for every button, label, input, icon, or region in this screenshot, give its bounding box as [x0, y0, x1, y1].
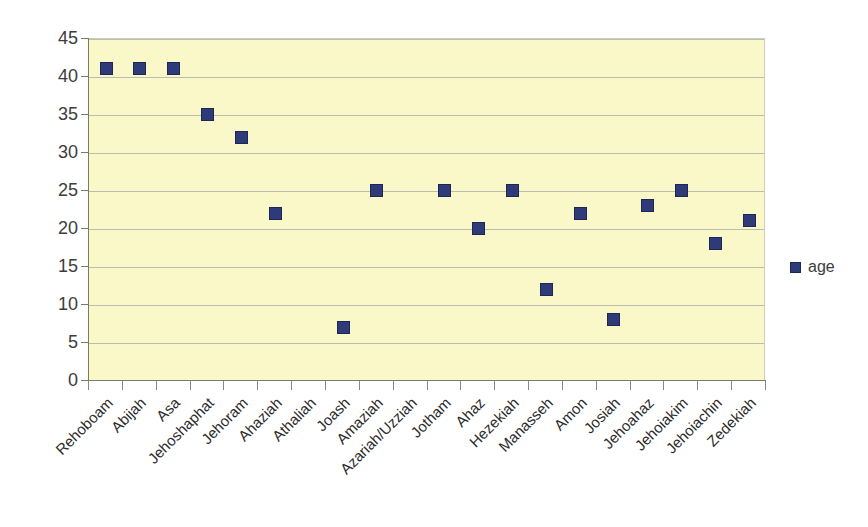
- data-point-marker[interactable]: [167, 62, 180, 75]
- x-axis-tick: [223, 381, 224, 390]
- x-axis-tick: [427, 381, 428, 390]
- gridline: [88, 343, 764, 344]
- x-axis-category-label: Abijah: [108, 394, 150, 436]
- y-axis-line: [88, 38, 89, 381]
- y-axis-tick: [81, 190, 88, 191]
- gridline: [88, 39, 764, 40]
- y-axis-tick-label: 45: [4, 29, 78, 47]
- y-axis-tick-label: 5: [4, 333, 78, 351]
- y-axis-tick: [81, 228, 88, 229]
- data-point-marker[interactable]: [743, 214, 756, 227]
- y-axis-tick: [81, 38, 88, 39]
- x-axis-tick: [359, 381, 360, 390]
- legend-swatch-age: [790, 262, 801, 273]
- chart-legend: age: [790, 258, 835, 276]
- x-axis-tick: [697, 381, 698, 390]
- x-axis-tick: [190, 381, 191, 390]
- y-axis-tick-label: 25: [4, 181, 78, 199]
- data-point-marker[interactable]: [540, 283, 553, 296]
- y-axis-tick-label: 30: [4, 143, 78, 161]
- x-axis-tick: [393, 381, 394, 390]
- data-point-marker[interactable]: [709, 237, 722, 250]
- y-axis-tick: [81, 266, 88, 267]
- x-axis-tick: [596, 381, 597, 390]
- data-point-marker[interactable]: [269, 207, 282, 220]
- y-axis-tick: [81, 342, 88, 343]
- gridline: [88, 115, 764, 116]
- y-axis-tick: [81, 114, 88, 115]
- y-axis-tick: [81, 304, 88, 305]
- x-axis-tick: [765, 381, 766, 390]
- data-point-marker[interactable]: [641, 199, 654, 212]
- x-axis-tick: [731, 381, 732, 390]
- x-axis-tick: [291, 381, 292, 390]
- data-point-marker[interactable]: [675, 184, 688, 197]
- x-axis-tick: [460, 381, 461, 390]
- data-point-marker[interactable]: [607, 313, 620, 326]
- gridline: [88, 191, 764, 192]
- y-axis-tick-label: 40: [4, 67, 78, 85]
- chart-container: 051015202530354045 RehoboamAbijahAsaJeho…: [0, 0, 868, 527]
- legend-label-age: age: [808, 258, 835, 276]
- x-axis-tick: [257, 381, 258, 390]
- gridline: [88, 153, 764, 154]
- y-axis-tick-label: 20: [4, 219, 78, 237]
- data-point-marker[interactable]: [574, 207, 587, 220]
- data-point-marker[interactable]: [438, 184, 451, 197]
- y-axis-tick: [81, 380, 88, 381]
- data-point-marker[interactable]: [472, 222, 485, 235]
- x-axis-tick: [562, 381, 563, 390]
- data-point-marker[interactable]: [235, 131, 248, 144]
- x-axis-tick: [325, 381, 326, 390]
- y-axis-tick-label: 15: [4, 257, 78, 275]
- gridline: [88, 77, 764, 78]
- y-axis-tick: [81, 76, 88, 77]
- data-point-marker[interactable]: [506, 184, 519, 197]
- x-axis-tick: [88, 381, 89, 390]
- data-point-marker[interactable]: [201, 108, 214, 121]
- gridline: [88, 229, 764, 230]
- y-axis-tick-label: 10: [4, 295, 78, 313]
- data-point-marker[interactable]: [133, 62, 146, 75]
- x-axis-tick: [494, 381, 495, 390]
- y-axis-tick-label: 0: [4, 371, 78, 389]
- data-point-marker[interactable]: [100, 62, 113, 75]
- x-axis-tick: [528, 381, 529, 390]
- y-axis-tick: [81, 152, 88, 153]
- y-axis-tick-label: 35: [4, 105, 78, 123]
- x-axis-tick: [630, 381, 631, 390]
- plot-area: [88, 38, 765, 380]
- x-axis-tick: [156, 381, 157, 390]
- data-point-marker[interactable]: [370, 184, 383, 197]
- x-axis-tick: [663, 381, 664, 390]
- gridline: [88, 267, 764, 268]
- gridline: [88, 305, 764, 306]
- x-axis-tick: [122, 381, 123, 390]
- data-point-marker[interactable]: [337, 321, 350, 334]
